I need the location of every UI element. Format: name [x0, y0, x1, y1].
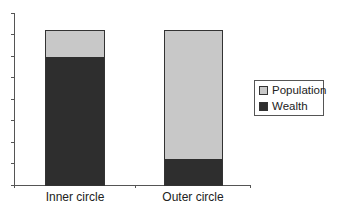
y-tick — [11, 56, 15, 57]
wealth-swatch-icon — [259, 102, 268, 111]
bar-outer-circle — [164, 30, 223, 186]
legend-item-population: Population — [259, 84, 326, 96]
bar-segment-population — [46, 31, 104, 57]
x-tick — [14, 185, 15, 188]
y-tick — [11, 77, 15, 78]
x-tick — [135, 185, 136, 188]
legend-label-wealth: Wealth — [272, 100, 308, 112]
x-tick — [250, 185, 251, 188]
bar-inner-circle — [45, 30, 105, 186]
legend-item-wealth: Wealth — [259, 100, 308, 112]
legend: Population Wealth — [254, 80, 324, 116]
y-tick — [11, 120, 15, 121]
bar-segment-population — [165, 31, 222, 159]
x-label-outer-circle: Outer circle — [143, 190, 243, 204]
y-tick — [11, 34, 15, 35]
x-label-inner-circle: Inner circle — [25, 190, 125, 204]
bar-segment-wealth — [46, 57, 104, 185]
y-tick — [11, 142, 15, 143]
legend-label-population: Population — [272, 84, 326, 96]
y-tick — [11, 13, 15, 14]
bar-segment-wealth — [165, 159, 222, 185]
stacked-bar-chart: Inner circle Outer circle Population Wea… — [0, 0, 338, 212]
y-tick — [11, 99, 15, 100]
y-tick — [11, 163, 15, 164]
population-swatch-icon — [259, 86, 268, 95]
